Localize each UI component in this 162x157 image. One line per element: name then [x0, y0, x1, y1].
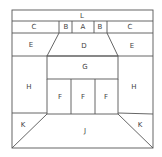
region-label-l: L: [80, 12, 84, 20]
region-label-b-left: B: [64, 23, 69, 31]
region-label-h-left: H: [26, 83, 31, 91]
region-label-k-right: K: [138, 121, 143, 129]
region-label-f-1: F: [58, 93, 62, 101]
region-label-j: J: [84, 127, 86, 135]
row-line-4-right: [118, 113, 153, 114]
d-left-edge: [47, 33, 59, 56]
region-label-e-left: E: [29, 41, 33, 49]
region-label-d: D: [81, 42, 86, 50]
k-right-diagonal: [118, 114, 153, 148]
k-left-diagonal: [12, 114, 47, 148]
region-label-b-right: B: [98, 23, 103, 31]
region-label-g: G: [82, 63, 87, 71]
region-label-e-right: E: [130, 42, 134, 50]
d-right-edge: [107, 33, 118, 56]
region-label-c-right: C: [128, 23, 133, 31]
region-label-h-right: H: [131, 83, 136, 91]
region-label-c-left: C: [32, 23, 37, 31]
region-label-a: A: [81, 23, 86, 31]
region-label-k-left: K: [21, 121, 26, 129]
region-label-f-3: F: [104, 93, 108, 101]
region-label-f-2: F: [81, 93, 85, 101]
